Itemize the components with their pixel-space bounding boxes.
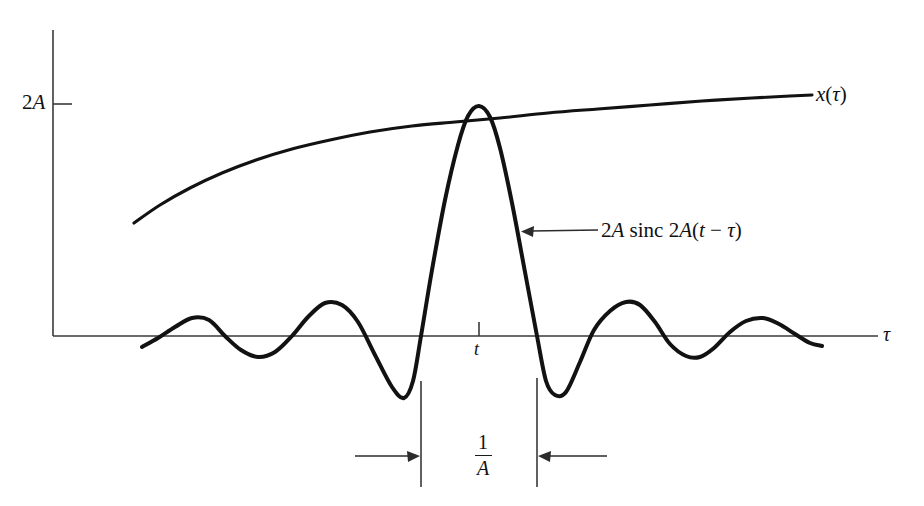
figure-svg [0, 0, 924, 506]
envelope-curve-group [134, 95, 812, 223]
fraction-denominator: A [466, 458, 500, 479]
sinc-curve-group [142, 106, 822, 398]
tick-label-2: 2 [22, 90, 33, 114]
callout-arg-open-paren: ( [692, 218, 699, 242]
dimension-arrow-head-right [538, 451, 551, 462]
dimension-arrow-head-left [407, 451, 420, 462]
envelope-label-close-paren: ) [840, 82, 847, 106]
fraction-numerator: 1 [466, 432, 500, 453]
tick-label-a: A [33, 90, 46, 114]
callout-arg-minus: − [705, 218, 727, 242]
x-axis-tick-label-t: t [474, 340, 479, 358]
callout-arg-tau: τ [727, 218, 735, 242]
callout-amp-a: A [612, 218, 625, 242]
callout-arrow-group [521, 226, 598, 237]
callout-fn-sinc: sinc [630, 218, 664, 242]
sinc-callout-label: 2A sinc 2A(t − τ) [601, 220, 742, 241]
callout-arg-amp-a: A [679, 218, 692, 242]
callout-amp-2: 2 [601, 218, 612, 242]
callout-arrow-head [521, 226, 534, 237]
figure-canvas: 2A τ x(τ) t 2A sinc 2A(t − τ) 1 A [0, 0, 924, 506]
envelope-curve-xtau [134, 95, 812, 223]
y-axis-tick-label-2a: 2A [22, 92, 45, 113]
sinc-curve-2a-sinc [142, 106, 822, 398]
envelope-curve-label: x(τ) [816, 84, 847, 105]
envelope-label-x: x [816, 82, 825, 106]
fraction-bar [475, 455, 492, 456]
x-axis-label-tau: τ [883, 324, 890, 344]
dimension-label-one-over-a: 1 A [466, 432, 500, 479]
callout-arg-amp-2: 2 [669, 218, 680, 242]
axes-group [53, 30, 878, 336]
callout-arrow-shaft [531, 230, 598, 231]
callout-arg-close-paren: ) [735, 218, 742, 242]
envelope-label-tau: τ [832, 82, 840, 106]
